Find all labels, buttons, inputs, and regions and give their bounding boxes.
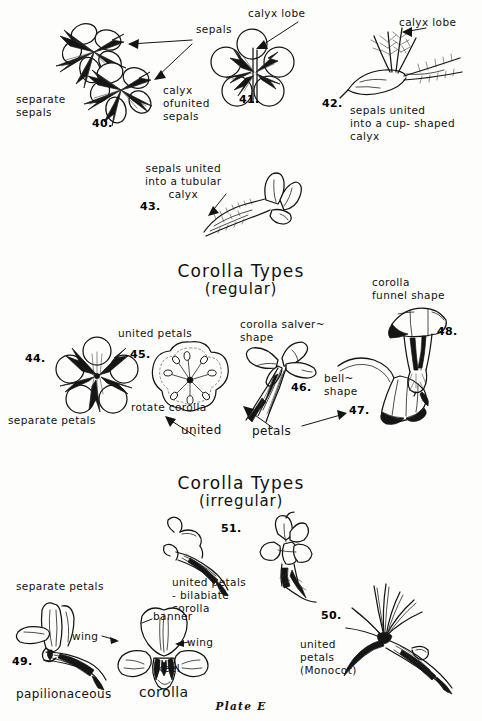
label-united-petals-45: united petals: [118, 327, 192, 340]
label-corolla-funnel-shape-48: corolla funnel shape: [372, 276, 445, 302]
figure-number-43: 43.: [140, 200, 160, 213]
label-separate-petals-49: separate petals: [16, 580, 104, 593]
heading-corolla-irregular: Corolla Types (irregular): [0, 456, 482, 527]
figure-number-40: 40.: [92, 117, 112, 130]
heading-corolla-irregular-title: Corolla Types: [178, 473, 305, 493]
label-united-petals-monocot-50: united petals (Monocot): [300, 638, 357, 676]
label-separate-petals-44: separate petals: [8, 414, 96, 427]
figure-number-41: 41.: [239, 93, 259, 106]
figure-48-drawing: [370, 304, 470, 396]
wing-left-arrow: [100, 630, 122, 646]
heading-corolla-regular-title: Corolla Types: [178, 261, 305, 281]
label-calyx-of-united-sepals-41: calyx ofunited sepals: [163, 84, 210, 122]
label-rotate-corolla-45: rotate corolla: [131, 401, 207, 414]
figure-number-42: 42.: [322, 97, 342, 110]
label-corolla-papilionaceous: corolla: [139, 684, 188, 701]
figure-43-drawing: [200, 170, 310, 242]
calyx-lobe-arrow-41: [236, 18, 306, 54]
banner-arrow: [138, 613, 158, 629]
label-petals-46: petals: [252, 424, 291, 439]
label-calyx-lobe-42: calyx lobe: [399, 16, 456, 29]
figure-number-48: 48.: [437, 325, 457, 338]
label-separate-sepals-40: separate sepals: [16, 93, 66, 119]
figure-number-51: 51.: [221, 522, 241, 535]
label-calyx-lobe-41: calyx lobe: [248, 7, 305, 20]
label-keel: keel: [157, 662, 180, 675]
figure-number-44: 44.: [25, 352, 45, 365]
label-banner: banner: [153, 610, 193, 623]
wing-right-arrow: [173, 634, 193, 650]
label-sepals-united-cup-42: sepals united into a cup- shaped calyx: [350, 104, 455, 142]
sepals-arrows-40: [88, 28, 198, 92]
figure-number-49: 49.: [12, 655, 32, 668]
heading-corolla-irregular-subtitle: (irregular): [0, 493, 482, 509]
label-united-45: united: [181, 423, 222, 438]
label-wing-left: wing: [72, 630, 98, 643]
figure-50-drawing: [330, 578, 476, 694]
plate-footer: Plate E: [0, 700, 482, 712]
figure-number-46: 46.: [291, 381, 311, 394]
botanical-plate: sepals separate sepals 40.: [0, 0, 482, 721]
figure-51-drawing-right: [248, 512, 324, 602]
